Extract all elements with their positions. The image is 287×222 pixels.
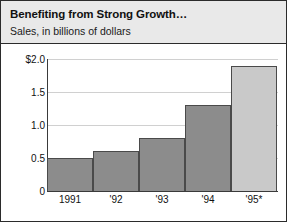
y-axis-tick-1-0: 1.0: [9, 120, 45, 131]
x-axis-tick-1991: 1991: [47, 194, 93, 205]
x-axis-tick-1993: '93: [139, 194, 185, 205]
x-axis-labels: 1991 '92 '93 '94 '95*: [47, 194, 277, 205]
y-axis-tick-1-5: 1.5: [9, 87, 45, 98]
y-axis-tick-0-5: 0.5: [9, 153, 45, 164]
x-axis-tick-1995: '95*: [231, 194, 277, 205]
x-axis-tick-1994: '94: [185, 194, 231, 205]
bar-series: [47, 59, 277, 191]
bar-1994: [185, 105, 231, 191]
chart-header: Benefiting from Strong Growth… Sales, in…: [1, 1, 286, 44]
page-title: Benefiting from Strong Growth…: [10, 8, 187, 20]
y-axis-tick-0: 0: [9, 186, 45, 197]
bar-1992: [93, 151, 139, 191]
chart-subtitle: Sales, in billions of dollars: [10, 25, 131, 37]
bar-1993: [139, 138, 185, 191]
y-axis-tick-2-0: $2.0: [9, 54, 45, 65]
x-axis-tick-1992: '92: [93, 194, 139, 205]
chart-figure: Benefiting from Strong Growth… Sales, in…: [0, 0, 287, 222]
plot-region: $2.0 1.5 1.0 0.5 0 1991 '92 '93 '94 '95*: [1, 45, 286, 222]
bar-1991: [47, 158, 93, 191]
bar-1995: [231, 66, 277, 191]
